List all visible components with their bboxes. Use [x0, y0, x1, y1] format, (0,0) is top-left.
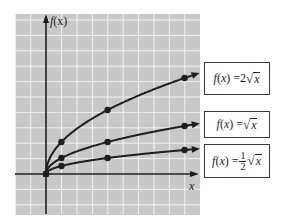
data-point	[104, 139, 110, 145]
data-point	[58, 139, 64, 145]
data-point	[181, 75, 187, 81]
data-point	[58, 155, 64, 161]
data-point	[43, 171, 49, 177]
data-point	[104, 155, 110, 161]
data-point	[104, 107, 110, 113]
legend-label-half-sqrtx: f(x) = 12 √x	[204, 144, 270, 178]
data-point	[181, 123, 187, 129]
label-prefix: f(x) =	[217, 117, 243, 132]
chart: f(x) x	[0, 0, 282, 216]
legend-label-sqrtx: f(x) = √x	[204, 111, 270, 138]
data-point	[58, 163, 64, 169]
data-point	[181, 147, 187, 153]
fraction-one-half: 12	[239, 151, 246, 172]
y-axis-label: f(x)	[50, 14, 67, 28]
x-axis-label: x	[188, 179, 195, 193]
label-prefix: f(x) =	[214, 71, 240, 86]
legend-label-2sqrtx: f(x) = 2 √x	[204, 62, 270, 95]
label-prefix: f(x) =	[212, 154, 238, 169]
sqrt-symbol: √x	[243, 117, 257, 133]
sqrt-symbol: √x	[246, 71, 260, 87]
sqrt-symbol: √x	[247, 153, 261, 169]
